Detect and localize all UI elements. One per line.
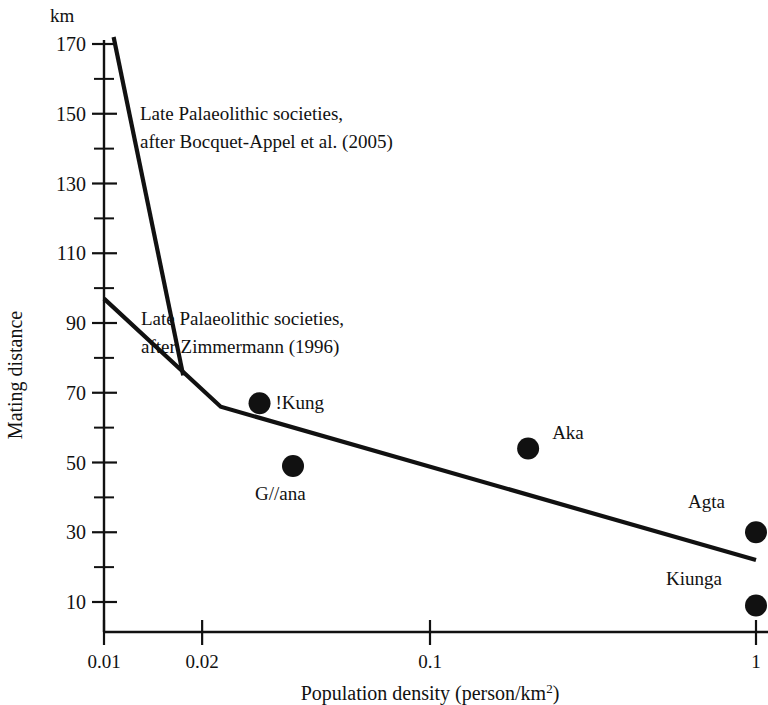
x-axis-title-base: Population density (person/km xyxy=(301,682,547,705)
data-point-marker xyxy=(249,392,271,414)
y-tick-label: 90 xyxy=(66,312,86,334)
svg-text:Population density (person/km2: Population density (person/km2) xyxy=(301,681,560,705)
y-axis-title: Mating distance xyxy=(4,311,27,439)
x-tick-label: 0.01 xyxy=(87,651,120,672)
annotation-line-1: Late Palaeolithic societies, xyxy=(141,308,344,329)
x-tick-label: 0.02 xyxy=(186,651,219,672)
y-tick-label: 70 xyxy=(66,382,86,404)
data-point-label: Kiunga xyxy=(666,568,723,589)
annotation-line-2: after Zimmermann (1996) xyxy=(141,336,339,358)
data-point-marker xyxy=(517,438,539,460)
y-tick-label: 170 xyxy=(56,33,86,55)
x-axis-title-tail: ) xyxy=(553,682,560,705)
data-point-marker xyxy=(745,521,767,543)
x-tick-label: 1 xyxy=(751,651,761,672)
data-point-marker xyxy=(282,455,304,477)
y-tick-label: 30 xyxy=(66,521,86,543)
y-tick-label: 110 xyxy=(57,242,86,264)
chart-figure: 1030507090110130150170 0.010.020.11 km M… xyxy=(0,0,768,705)
data-point-labels-group: !KungG//anaAkaAgtaKiunga xyxy=(255,392,725,589)
y-tick-label: 130 xyxy=(56,173,86,195)
y-axis-unit-label: km xyxy=(50,5,75,26)
x-axis-title: Population density (person/km2) xyxy=(301,681,560,705)
data-point-label: Agta xyxy=(688,491,726,512)
annotation-line-1: Late Palaeolithic societies, xyxy=(140,103,343,124)
x-axis-tick-labels: 0.010.020.11 xyxy=(87,651,760,672)
x-tick-label: 0.1 xyxy=(418,651,442,672)
data-point-label: !Kung xyxy=(276,392,325,413)
data-point-label: Aka xyxy=(552,422,584,443)
mating-distance-scatter-plot: 1030507090110130150170 0.010.020.11 km M… xyxy=(0,0,768,705)
data-point-marker xyxy=(745,594,767,616)
annotation-line-2: after Bocquet-Appel et al. (2005) xyxy=(140,131,393,153)
data-point-label: G//ana xyxy=(255,483,306,504)
y-tick-label: 150 xyxy=(56,103,86,125)
y-axis-tick-labels: 1030507090110130150170 xyxy=(56,33,86,613)
y-tick-label: 50 xyxy=(66,452,86,474)
annotation-zimmermann: Late Palaeolithic societies,after Zimmer… xyxy=(141,308,344,358)
annotations-group: Late Palaeolithic societies,after Bocque… xyxy=(140,103,393,358)
annotation-bocquet: Late Palaeolithic societies,after Bocque… xyxy=(140,103,393,153)
y-tick-label: 10 xyxy=(66,591,86,613)
